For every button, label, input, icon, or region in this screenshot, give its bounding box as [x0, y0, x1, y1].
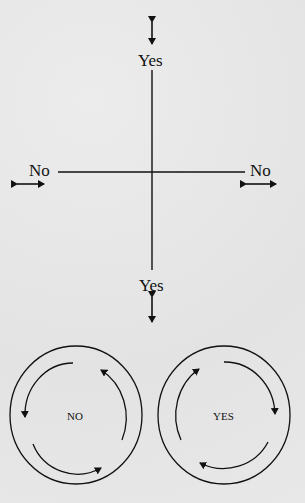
diagram-canvas: Yes No No Yes NO YES — [0, 0, 305, 503]
diagram-graphics — [0, 0, 305, 503]
top-yes-label: Yes — [138, 52, 163, 69]
bottom-yes-label: Yes — [139, 277, 164, 294]
left-no-label: No — [29, 162, 50, 179]
yes-cycle-label: YES — [213, 411, 234, 422]
right-no-label: No — [250, 162, 271, 179]
no-cycle-label: NO — [67, 411, 83, 422]
